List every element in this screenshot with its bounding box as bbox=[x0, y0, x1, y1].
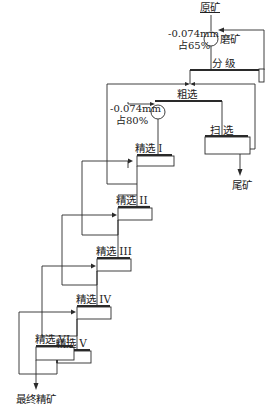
cleaner-3-label: 精选 III bbox=[96, 246, 132, 257]
tailings-label: 尾矿 bbox=[232, 180, 252, 191]
scavenger-label: 扫 选 bbox=[210, 125, 233, 136]
rougher-label: 粗选 bbox=[177, 89, 197, 100]
final-concentrate-label: 最终精矿 bbox=[16, 394, 56, 405]
feed-label: 原矿 bbox=[200, 2, 220, 13]
regrind-spec-size: -0.074mm bbox=[110, 104, 161, 114]
cleaner-2-label: 精选 II bbox=[116, 195, 148, 206]
grind-spec-percent: 占65% bbox=[178, 41, 210, 51]
cleaner-4-label: 精选 IV bbox=[76, 294, 111, 305]
cleaner-6-label: 精选 VI bbox=[35, 334, 70, 345]
regrind-spec-percent: 占80% bbox=[116, 116, 148, 126]
cleaner-1-label: 精选 I bbox=[135, 143, 163, 154]
grind-spec-size: -0.074mm bbox=[168, 29, 219, 39]
grinding-label: 磨矿 bbox=[220, 34, 240, 45]
classification-label: 分 级 bbox=[212, 58, 235, 69]
